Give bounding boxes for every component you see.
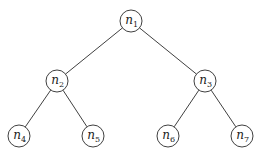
edge-n2-n5 — [63, 90, 87, 127]
node-label: n — [125, 13, 133, 27]
tree-node-n6: n6 — [157, 125, 179, 147]
tree-node-n4: n4 — [8, 125, 30, 147]
node-subscript: 7 — [244, 135, 249, 144]
tree-node-n7: n7 — [231, 125, 253, 147]
edge-n3-n6 — [174, 90, 199, 127]
edge-n3-n7 — [211, 90, 236, 127]
nodes-layer: n1n2n3n4n5n6n7 — [8, 10, 253, 147]
node-subscript: 1 — [133, 20, 138, 29]
node-subscript: 5 — [95, 135, 100, 144]
tree-node-n2: n2 — [46, 70, 68, 92]
edge-n1-n2 — [66, 28, 123, 74]
node-subscript: 4 — [21, 135, 26, 144]
node-label: n — [199, 73, 207, 87]
edge-n1-n3 — [140, 28, 197, 74]
node-subscript: 3 — [207, 80, 212, 89]
tree-diagram: n1n2n3n4n5n6n7 — [0, 0, 261, 156]
node-subscript: 2 — [59, 80, 64, 89]
tree-node-n1: n1 — [120, 10, 142, 32]
node-label: n — [51, 73, 59, 87]
edge-n2-n4 — [25, 90, 50, 127]
node-label: n — [13, 128, 21, 142]
node-label: n — [236, 128, 244, 142]
tree-node-n5: n5 — [82, 125, 104, 147]
node-label: n — [162, 128, 170, 142]
node-label: n — [87, 128, 95, 142]
tree-diagram-svg: n1n2n3n4n5n6n7 — [0, 0, 261, 156]
node-subscript: 6 — [170, 135, 175, 144]
tree-node-n3: n3 — [194, 70, 216, 92]
